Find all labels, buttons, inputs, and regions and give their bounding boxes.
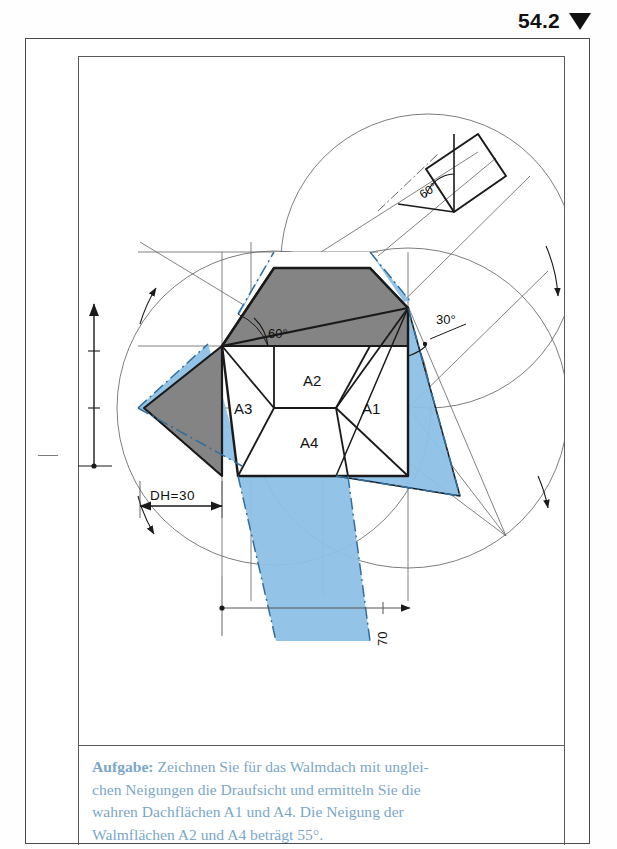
label-a2: A2 [303,372,321,389]
label-a1: A1 [362,400,380,417]
page-root: 54.2 [0,0,617,849]
task-line-2: chen Neigungen die Draufsicht und ermitt… [92,779,550,802]
label-dh: DH=30 [150,488,195,503]
task-line-1-rest: Zeichnen Sie für das Walmdach mit unglei… [154,758,429,775]
gray-shape-left [144,346,222,476]
down-triangle-icon [569,13,591,30]
rotated-construction-rect [426,134,506,212]
task-lead-label: Aufgabe: [92,758,154,775]
technical-drawing: A1 A2 A3 A4 60° 30° 60° DH=30 70 40 20 [78,56,565,745]
label-angle-construction: 60° [417,180,440,202]
task-divider-line [78,745,565,746]
task-line-4: Walmflächen A2 und A4 beträgt 55°. [92,824,550,847]
label-angle-right: 30° [436,312,456,327]
task-line-1: Aufgabe: Zeichnen Sie für das Walmdach m… [92,756,550,779]
label-width: 70 [375,632,390,646]
margin-tick-mark [38,455,58,456]
task-line-3: wahren Dachflächen A1 und A4. Die Neigun… [92,801,550,824]
blue-shape-bottom [238,476,370,641]
page-number: 54.2 [518,9,560,33]
task-text-block: Aufgabe: Zeichnen Sie für das Walmdach m… [92,756,550,846]
label-angle-left: 60° [268,326,288,341]
label-a4: A4 [300,434,318,451]
page-header: 54.2 [518,6,591,36]
label-a3: A3 [234,400,252,417]
vertical-dimension-scale [78,304,112,469]
